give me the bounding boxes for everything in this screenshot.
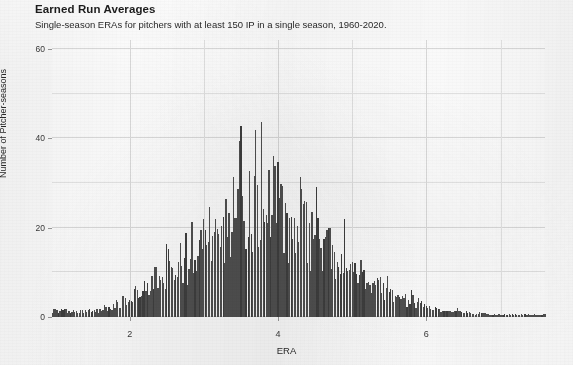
chart-subtitle: Single-season ERAs for pitchers with at … bbox=[35, 19, 387, 30]
x-axis-label: ERA bbox=[0, 345, 573, 356]
x-tick-mark bbox=[130, 317, 131, 321]
x-tick-mark bbox=[426, 317, 427, 321]
y-tick-label: 60 bbox=[5, 44, 45, 54]
y-axis-label: Number of Pitcher-seasons bbox=[0, 69, 8, 178]
chart-root: Earned Run Averages Single-season ERAs f… bbox=[0, 0, 573, 365]
y-tick-label: 0 bbox=[5, 312, 45, 322]
histogram-bar bbox=[544, 314, 545, 317]
plot-panel bbox=[52, 40, 545, 317]
x-tick-mark bbox=[278, 317, 279, 321]
y-tick-mark bbox=[48, 317, 52, 318]
y-tick-label: 20 bbox=[5, 223, 45, 233]
x-tick-label: 4 bbox=[276, 329, 281, 339]
x-tick-label: 6 bbox=[424, 329, 429, 339]
histogram-bars bbox=[52, 40, 545, 317]
chart-title: Earned Run Averages bbox=[35, 3, 156, 15]
x-tick-label: 2 bbox=[127, 329, 132, 339]
y-tick-label: 40 bbox=[5, 133, 45, 143]
